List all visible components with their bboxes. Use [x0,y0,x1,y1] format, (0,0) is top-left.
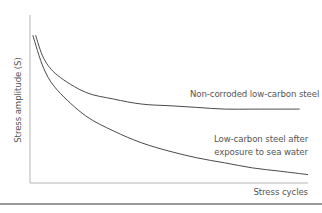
series-label-non-corroded: Non-corroded low-carbon steel [190,89,319,99]
x-axis-label: Stress cycles [253,187,308,197]
bottom-divider [0,203,322,205]
series-label-line1: Low-carbon steel after [214,133,308,146]
series-label-sea-water: Low-carbon steel after exposure to sea w… [214,133,308,159]
y-axis-label: Stress amplitude (S) [13,57,23,142]
sn-curve-chart [0,0,322,213]
series-label-line2: exposure to sea water [214,146,308,159]
